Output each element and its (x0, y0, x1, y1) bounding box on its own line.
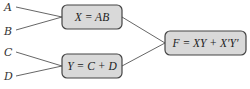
input-label-d: D (3, 70, 13, 83)
wire-b-x (16, 17, 62, 30)
input-label-a: A (3, 1, 12, 14)
wire-d-y (16, 66, 62, 76)
input-label-c: C (4, 46, 13, 59)
wire-x-f (122, 17, 165, 43)
wire-a-x (16, 7, 62, 17)
input-label-b: B (3, 25, 12, 38)
wire-c-y (16, 52, 62, 66)
node-y-label: Y = C + D (67, 60, 117, 72)
node-x-label: X = AB (74, 11, 109, 23)
node-f-label: F = XY + X′Y′ (172, 37, 239, 49)
logic-diagram: A B C D X = AB Y = C + D F = XY + X′Y′ (0, 0, 250, 89)
wire-y-f (122, 43, 165, 66)
